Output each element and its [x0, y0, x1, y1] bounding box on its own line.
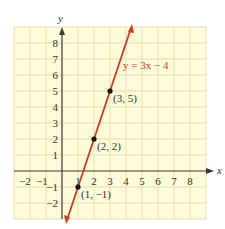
- y-tick: 6: [53, 69, 59, 81]
- point-1-neg1: [75, 184, 80, 189]
- x-tick: −2: [19, 175, 31, 187]
- y-tick: −2: [46, 197, 58, 209]
- point-label: (1, −1): [81, 188, 111, 201]
- point-label: (3, 5): [113, 92, 137, 105]
- point-2-2: [91, 136, 96, 141]
- x-axis-label: x: [216, 164, 222, 176]
- y-axis-label: y: [57, 12, 63, 24]
- x-tick: 3: [107, 175, 113, 187]
- point-3-5: [107, 88, 112, 93]
- point-label: (2, 2): [97, 140, 121, 153]
- equation-label: y = 3x − 4: [123, 59, 169, 71]
- y-tick: 5: [53, 85, 59, 97]
- x-tick: 8: [187, 175, 193, 187]
- y-tick: −1: [46, 181, 58, 193]
- y-tick: 3: [53, 117, 59, 129]
- x-tick: 2: [91, 175, 97, 187]
- x-tick: 4: [123, 175, 129, 187]
- x-tick: 5: [139, 175, 145, 187]
- x-axis-arrow-icon: [206, 168, 214, 174]
- y-tick: 7: [53, 53, 59, 65]
- x-tick: 6: [155, 175, 161, 187]
- y-tick: 8: [53, 37, 59, 49]
- x-tick: 7: [171, 175, 177, 187]
- y-tick: 1: [53, 149, 59, 161]
- y-tick: 2: [53, 133, 59, 145]
- coordinate-plane: x y −2 −1 1 2 3 4 5 6 7 8 8 7 6 5 4 3 2 …: [0, 0, 225, 229]
- y-tick: 4: [53, 101, 59, 113]
